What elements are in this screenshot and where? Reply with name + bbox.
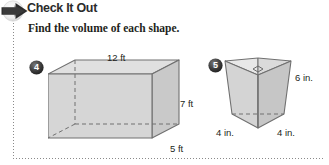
page-title: Check It Out bbox=[27, 1, 97, 15]
triangular-prism-figure bbox=[222, 56, 294, 132]
right-arrow-icon bbox=[0, 0, 30, 22]
problem-number-label-5: 5 bbox=[208, 58, 223, 73]
dimension-label-length-12ft: 12 ft bbox=[107, 52, 126, 63]
left-dotted-rule bbox=[13, 14, 14, 159]
rectangular-prism-figure bbox=[48, 58, 188, 150]
dimension-label-depth-5ft: 5 ft bbox=[170, 143, 183, 154]
dimension-label-height-7ft: 7 ft bbox=[180, 98, 193, 109]
dimension-label-height-6in: 6 in. bbox=[295, 72, 313, 83]
problem-number-badge-4: 4 bbox=[29, 60, 44, 75]
bottom-dotted-rule bbox=[13, 158, 325, 159]
instruction-text: Find the volume of each shape. bbox=[28, 22, 179, 34]
dimension-label-base-right-4in: 4 in. bbox=[277, 127, 295, 138]
problem-number-badge-5: 5 bbox=[208, 58, 223, 73]
problem-number-label-4: 4 bbox=[29, 60, 44, 75]
dimension-label-base-left-4in: 4 in. bbox=[216, 127, 234, 138]
